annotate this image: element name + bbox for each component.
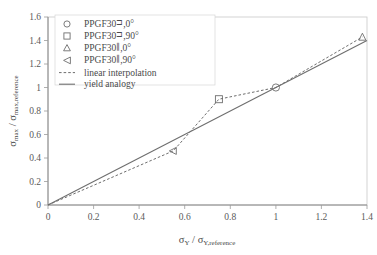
x-tick-label: 1 (274, 212, 279, 222)
x-axis-title-divider: / (189, 234, 197, 245)
y-axis-ticks (44, 17, 48, 205)
y-tick-label: 0.2 (29, 177, 41, 187)
y-axis-title: σmax / σmax,reference (7, 75, 20, 146)
legend-label-3: PPGF30∥,0° (84, 42, 131, 54)
legend-label-5: linear interpolation (84, 68, 157, 78)
legend-label-1: PPGF30⊐,0° (84, 18, 134, 30)
y-tick-label: 1 (36, 83, 41, 93)
y-tick-label: 1.4 (29, 36, 41, 46)
x-tick-label: 0.4 (133, 212, 145, 222)
x-tick-label: 1.2 (315, 212, 327, 222)
triangle-up-marker (359, 33, 366, 40)
svg-text:σY / σY,reference: σY / σY,reference (179, 234, 236, 247)
y-axis-tick-labels: 0 0.2 0.4 0.6 0.8 1 1.2 1.4 1.6 (29, 12, 41, 210)
y-tick-label: 0 (36, 200, 41, 210)
legend-label-2: PPGF30⊐,90° (84, 30, 139, 42)
y-axis-title-sub2: max,reference (12, 75, 20, 115)
x-tick-label: 0.6 (179, 212, 191, 222)
legend-label-6: yield analogy (84, 79, 136, 89)
y-tick-label: 1.6 (29, 12, 41, 22)
x-tick-label: 0.2 (88, 212, 100, 222)
y-tick-label: 0.4 (29, 153, 41, 163)
x-tick-label: 0 (46, 212, 51, 222)
x-axis-title-sub2: Y,reference (203, 239, 235, 247)
x-tick-label: 0.8 (224, 212, 236, 222)
y-axis-title-sub1: max (12, 128, 20, 141)
y-tick-label: 0.8 (29, 106, 41, 116)
chart-svg: 0 0.2 0.4 0.6 0.8 1 1.2 1.4 1.6 0 0.2 0.… (0, 0, 377, 255)
x-tick-label: 1.4 (361, 212, 373, 222)
svg-text:σmax / σmax,reference: σmax / σmax,reference (7, 75, 20, 146)
legend: PPGF30⊐,0° PPGF30⊐,90° PPGF30∥,0° PPGF30… (55, 15, 215, 89)
chart-figure: 0 0.2 0.4 0.6 0.8 1 1.2 1.4 1.6 0 0.2 0.… (0, 0, 377, 255)
y-tick-label: 0.6 (29, 130, 41, 140)
x-axis-tick-labels: 0 0.2 0.4 0.6 0.8 1 1.2 1.4 (46, 212, 374, 222)
legend-label-4: PPGF30∥,90° (84, 54, 136, 66)
x-axis-ticks (48, 205, 367, 209)
x-axis-title: σY / σY,reference (179, 234, 236, 247)
y-axis-title-divider: / (7, 121, 18, 129)
y-tick-label: 1.2 (29, 59, 41, 69)
